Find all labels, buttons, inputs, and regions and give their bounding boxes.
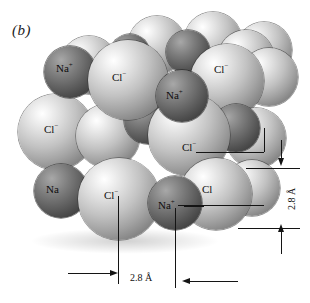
extension-line-lower bbox=[238, 228, 300, 229]
ion-label-sodium: Na+ bbox=[166, 90, 183, 101]
dimension-arrow-right bbox=[110, 270, 118, 276]
ion-label-chloride: Cl− bbox=[112, 72, 126, 83]
ion-chloride bbox=[88, 40, 168, 120]
dimension-arrow-up bbox=[278, 224, 284, 232]
leader-line-sodium-bottom bbox=[184, 206, 204, 207]
ion-label-chloride: Cl− bbox=[182, 142, 196, 153]
dimension-arrow-shaft-bottom bbox=[281, 230, 282, 254]
ion-label-chloride: Cl− bbox=[44, 124, 58, 135]
dimension-arrow-left bbox=[182, 278, 190, 284]
dimension-label-horizontal: 2.8 Å bbox=[130, 272, 152, 283]
extension-line-upper bbox=[246, 168, 300, 169]
dimension-arrow-shaft-right bbox=[190, 281, 238, 282]
witness-line-left bbox=[118, 196, 119, 284]
dimension-arrow-down bbox=[278, 158, 284, 166]
leader-line-chloride-mid bbox=[196, 152, 264, 153]
reference-line-top bbox=[264, 128, 265, 152]
ion-label-sodium: Na+ bbox=[56, 63, 73, 74]
witness-line-right bbox=[175, 208, 176, 288]
ion-label-chloride: Cl− bbox=[104, 190, 118, 201]
ion-label-chloride: Cl bbox=[202, 184, 212, 195]
figure-nacl-crystal-structure: (b) Na+ Cl− Cl− Na+ Cl− Cl− bbox=[0, 0, 310, 303]
dimension-arrow-shaft-left bbox=[68, 273, 112, 274]
dimension-label-vertical: 2.8 Å bbox=[286, 188, 297, 210]
ion-label-sodium: Na+ bbox=[158, 200, 175, 211]
ion-label-sodium: Na bbox=[46, 184, 59, 195]
ion-label-chloride: Cl− bbox=[214, 64, 228, 75]
